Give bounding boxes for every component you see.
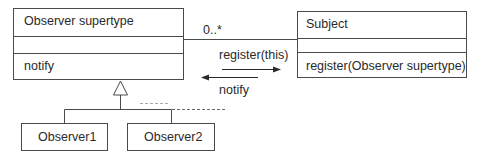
association-multiplicity: 0..* (203, 23, 222, 37)
observer-supertype-operation: notify (24, 59, 54, 73)
register-message-label: register(this) (219, 48, 288, 62)
notify-arrow-icon (201, 75, 258, 81)
generalization-triangle-icon (114, 81, 128, 95)
observer1-name: Observer1 (38, 130, 96, 144)
subject-name: Subject (306, 17, 348, 31)
register-arrow-icon (222, 67, 281, 73)
observer-supertype-name: Observer supertype (24, 14, 134, 28)
uml-diagram: Observer supertype notify Subject regist… (0, 0, 484, 158)
subject-operation: register(Observer supertype) (306, 59, 466, 73)
notify-message-label: notify (219, 83, 249, 97)
observer2-name: Observer2 (144, 130, 202, 144)
